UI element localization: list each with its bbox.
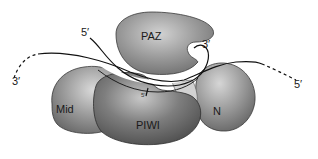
target-3prime-label: 3′ — [12, 76, 20, 87]
n-domain — [196, 63, 255, 131]
paz-label: PAZ — [141, 31, 162, 42]
guide-5prime-label: 5′ — [81, 27, 89, 38]
mid-label: Mid — [56, 104, 74, 115]
argonaute-diagram: PAZ Mid PIWI N 5′ 3′ 3′ 5′ 5′ — [0, 0, 318, 159]
guide-3prime-label: 3′ — [202, 39, 210, 50]
n-label: N — [213, 106, 221, 117]
target-5prime-label: 5′ — [294, 79, 302, 90]
diagram-canvas — [0, 0, 318, 159]
paz-domain — [116, 12, 214, 75]
piwi-label: PIWI — [136, 120, 160, 131]
pocket-5prime-label: 5′ — [141, 92, 145, 98]
